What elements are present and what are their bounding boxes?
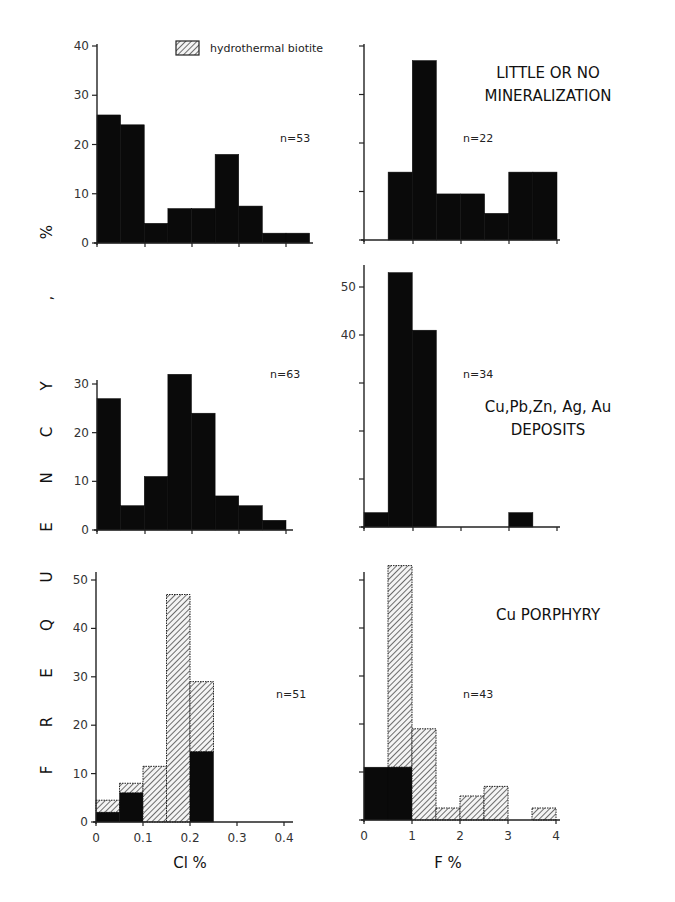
y-axis-letter: R <box>38 717 56 727</box>
bar-solid <box>286 233 310 243</box>
x-axis-title-cl: Cl % <box>173 854 207 872</box>
bar-hydrothermal <box>484 786 508 820</box>
bar-solid <box>412 330 436 527</box>
bar-solid <box>412 61 436 240</box>
y-tick-label: 40 <box>73 621 88 635</box>
sample-count: n=53 <box>280 132 310 145</box>
bar-solid <box>388 767 412 820</box>
bar-solid <box>239 206 263 243</box>
x-tick-label: 3 <box>504 829 512 843</box>
bar-solid <box>509 172 533 240</box>
y-tick-label: 50 <box>341 280 356 294</box>
bar-solid <box>215 496 239 530</box>
bar-solid <box>215 154 239 243</box>
bar-solid <box>144 476 168 530</box>
bar-solid <box>436 194 460 240</box>
bar-hydrothermal <box>167 595 191 822</box>
y-tick-label: 50 <box>73 573 88 587</box>
bar-solid <box>388 172 412 240</box>
row-titles: LITTLE OR NOMINERALIZATIONCu,Pb,Zn, Ag, … <box>485 64 612 624</box>
y-axis-letter: E <box>38 668 56 677</box>
y-axis-letter: U <box>38 572 56 583</box>
row-title: MINERALIZATION <box>485 87 612 105</box>
bar-hydrothermal <box>143 766 167 822</box>
bar-solid <box>533 172 557 240</box>
row-title: LITTLE OR NO <box>496 64 599 82</box>
y-tick-label: 10 <box>73 767 88 781</box>
y-axis-unit: % <box>38 225 56 239</box>
bar-solid <box>190 752 214 822</box>
panels: 010203040n=53n=220102030n=635040n=3400.1… <box>73 39 560 845</box>
x-tick-label: 0 <box>360 829 368 843</box>
bar-solid <box>97 115 121 243</box>
bar-hydrothermal <box>120 783 144 793</box>
bar-solid <box>168 374 192 530</box>
y-axis-letter: Q <box>38 619 56 631</box>
y-tick-label: 20 <box>73 718 88 732</box>
bar-solid <box>461 194 485 240</box>
bar-solid <box>168 209 192 243</box>
y-tick-label: 40 <box>74 39 89 53</box>
x-tick-label: 1 <box>408 829 416 843</box>
legend: hydrothermal biotite <box>176 41 323 55</box>
bar-hydrothermal <box>532 808 556 820</box>
x-tick-label: 2 <box>456 829 464 843</box>
y-axis-letter: N <box>38 472 56 483</box>
y-axis-letter: C <box>38 427 56 437</box>
x-tick-label: 0.1 <box>133 831 152 845</box>
y-tick-label: 30 <box>74 88 89 102</box>
bar-solid <box>120 793 144 822</box>
bar-solid <box>509 513 533 527</box>
bar-solid <box>96 812 120 822</box>
bar-solid <box>121 125 145 243</box>
figure: hydrothermal biotite 010203040n=53n=2201… <box>0 0 675 902</box>
bar-solid <box>485 213 509 240</box>
bar-solid <box>144 223 168 243</box>
bar-solid <box>121 506 145 530</box>
bar-hydrothermal <box>388 566 412 768</box>
bar-solid <box>192 413 216 530</box>
x-tick-label: 4 <box>552 829 560 843</box>
row-title: Cu PORPHYRY <box>496 606 601 624</box>
bar-hydrothermal <box>460 796 484 820</box>
x-tick-label: 0 <box>92 831 100 845</box>
bar-solid <box>262 520 286 530</box>
sample-count: n=51 <box>276 688 306 701</box>
row-title: DEPOSITS <box>511 421 586 439</box>
bar-hydrothermal <box>190 682 214 752</box>
bar-hydrothermal <box>436 808 460 820</box>
bar-solid <box>192 209 216 243</box>
panel-cl-deposits: 0102030n=63 <box>74 368 300 537</box>
x-tick-label: 0.4 <box>274 831 293 845</box>
legend-swatch-hatched <box>176 41 199 55</box>
x-tick-label: 0.3 <box>227 831 246 845</box>
y-axis-letter: , <box>38 296 56 301</box>
sample-count: n=34 <box>463 368 493 381</box>
x-axis-title-f: F % <box>434 854 462 872</box>
y-tick-label: 0 <box>80 815 88 829</box>
y-axis-letter: E <box>38 522 56 531</box>
bar-solid <box>388 273 412 527</box>
bar-solid <box>239 506 263 530</box>
x-tick-label: 0.2 <box>180 831 199 845</box>
y-axis-letter: Y <box>38 381 56 392</box>
bar-hydrothermal <box>96 800 120 812</box>
sample-count: n=63 <box>270 368 300 381</box>
panel-cl-porphyry: 00.10.20.30.401020304050n=51 <box>73 572 306 845</box>
y-tick-label: 0 <box>81 236 89 250</box>
row-title: Cu,Pb,Zn, Ag, Au <box>485 398 612 416</box>
legend-label: hydrothermal biotite <box>210 42 323 55</box>
y-tick-label: 30 <box>73 670 88 684</box>
bar-solid <box>262 233 286 243</box>
bar-solid <box>364 513 388 527</box>
y-tick-label: 0 <box>81 523 89 537</box>
sample-count: n=22 <box>463 132 493 145</box>
y-axis-title: FREQUENCY, <box>38 296 56 775</box>
y-tick-label: 40 <box>341 328 356 342</box>
sample-count: n=43 <box>463 688 493 701</box>
bar-hydrothermal <box>412 729 436 820</box>
y-tick-label: 20 <box>74 426 89 440</box>
y-axis-letter: F <box>38 766 56 775</box>
y-tick-label: 20 <box>74 138 89 152</box>
y-tick-label: 10 <box>74 187 89 201</box>
